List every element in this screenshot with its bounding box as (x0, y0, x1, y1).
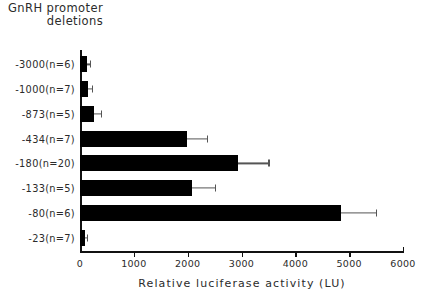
error-bar (94, 113, 101, 114)
bar (80, 81, 88, 97)
y-axis-category-label: -80(n=6) (28, 207, 75, 218)
error-bar-cap (101, 110, 102, 117)
bar-row: -3000(n=6) (80, 52, 403, 77)
x-axis-tick-label: 1000 (121, 258, 146, 269)
x-axis-tick-label: 5000 (336, 258, 361, 269)
y-axis-category-label: -180(n=20) (15, 158, 75, 169)
bar-row: -1000(n=7) (80, 77, 403, 102)
y-axis-category-label: -434(n=7) (22, 133, 75, 144)
x-axis-tick (403, 247, 404, 252)
bar (80, 205, 341, 221)
x-axis-tick-label: 4000 (283, 258, 308, 269)
x-axis-tick (242, 252, 243, 257)
y-axis-category-label: -3000(n=6) (15, 59, 75, 70)
error-bar (341, 212, 376, 213)
bar (80, 155, 238, 171)
error-bar (238, 163, 268, 164)
bar (80, 106, 94, 122)
y-axis-category-label: -873(n=5) (22, 108, 75, 119)
y-axis-category-label: -23(n=7) (28, 232, 75, 243)
bar (80, 131, 187, 147)
chart-title-line-2: deletions (8, 15, 168, 28)
x-axis-tick-label: 6000 (390, 258, 415, 269)
error-bar-cap (207, 135, 208, 142)
bar-row: -180(n=20) (80, 151, 403, 176)
bar-row: -873(n=5) (80, 102, 403, 127)
error-bar-cap (268, 160, 269, 167)
chart-title: GnRH promoter deletions (8, 2, 168, 28)
error-bar-cap (87, 234, 88, 241)
y-axis-category-label: -133(n=5) (22, 183, 75, 194)
bar-row: -80(n=6) (80, 201, 403, 226)
x-axis-tick (295, 252, 296, 257)
bar-row: -23(n=7) (80, 225, 403, 250)
error-bar-cap (215, 185, 216, 192)
y-axis-category-label: -1000(n=7) (15, 84, 75, 95)
bar (80, 56, 87, 72)
x-axis-tick-label: 2000 (175, 258, 200, 269)
x-axis-tick (80, 247, 81, 252)
bar-row: -133(n=5) (80, 176, 403, 201)
bar-row: -434(n=7) (80, 126, 403, 151)
x-axis-tick-label: 3000 (229, 258, 254, 269)
error-bar (187, 138, 207, 139)
x-axis-tick (134, 252, 135, 257)
x-axis-title: Relative luciferase activity (LU) (80, 277, 404, 290)
x-axis-tick (188, 252, 189, 257)
error-bar (192, 188, 215, 189)
x-axis-tick-label: 0 (77, 258, 83, 269)
x-axis-tick (349, 252, 350, 257)
error-bar-cap (90, 61, 91, 68)
plot-area: -3000(n=6)-1000(n=7)-873(n=5)-434(n=7)-1… (80, 52, 403, 250)
bar (80, 180, 192, 196)
error-bar-cap (92, 86, 93, 93)
error-bar-cap (376, 209, 377, 216)
